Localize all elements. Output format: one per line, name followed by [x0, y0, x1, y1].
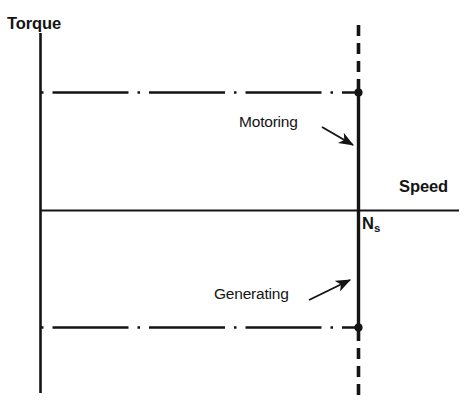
lower-endpoint-marker	[354, 323, 362, 331]
generating-region-label: Generating	[214, 286, 289, 302]
synchronous-speed-label: Ns	[362, 215, 380, 235]
synchronous-speed-symbol: N	[362, 214, 374, 232]
motoring-region-label: Motoring	[239, 114, 298, 130]
speed-axis-label: Speed	[399, 178, 448, 195]
torque-axis-label: Torque	[7, 15, 61, 32]
upper-endpoint-marker	[354, 88, 362, 96]
motoring-leader-arrow	[322, 127, 353, 145]
diagram-canvas	[0, 0, 467, 405]
torque-speed-diagram: Torque Speed Ns Motoring Generating	[0, 0, 467, 405]
synchronous-speed-subscript: s	[374, 222, 380, 234]
generating-leader-arrow	[309, 280, 350, 300]
